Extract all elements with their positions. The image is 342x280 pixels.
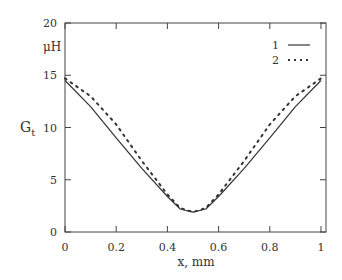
chart: 05101520 00.20.40.60.81 μH Gt x, mm 1 2 [0, 0, 342, 280]
x-tick-label: 0 [62, 241, 69, 254]
series-1-line [65, 81, 321, 213]
y-axis-label: Gt [20, 119, 35, 138]
legend: 1 2 [272, 39, 312, 67]
y-tick-label: 20 [43, 17, 57, 30]
data-series [65, 78, 321, 212]
x-axis-ticks: 00.20.40.60.81 [62, 23, 325, 254]
plot-frame [65, 23, 326, 232]
y-tick-label: 15 [43, 69, 57, 82]
y-tick-label: 5 [50, 174, 57, 187]
legend-label-1: 1 [272, 39, 279, 52]
y-unit-label: μH [43, 40, 61, 54]
x-tick-label: 0.4 [159, 241, 177, 254]
y-tick-label: 10 [43, 122, 57, 135]
x-axis-label: x, mm [177, 255, 215, 269]
y-axis-ticks: 05101520 [43, 17, 326, 239]
y-tick-label: 0 [50, 226, 57, 239]
x-tick-label: 0.2 [107, 241, 125, 254]
x-tick-label: 1 [318, 241, 325, 254]
legend-label-2: 2 [272, 54, 279, 67]
x-tick-label: 0.8 [261, 241, 279, 254]
x-tick-label: 0.6 [210, 241, 228, 254]
series-2-line [65, 78, 321, 212]
